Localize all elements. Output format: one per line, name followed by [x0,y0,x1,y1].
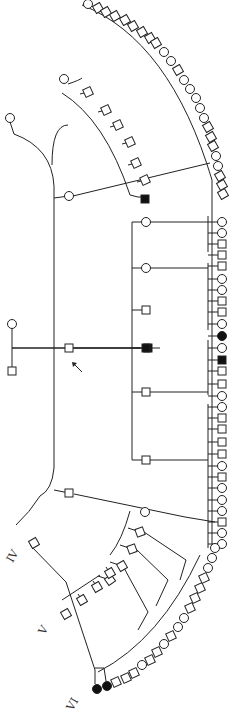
female-symbol [212,152,221,161]
male-symbol [218,438,226,446]
affected-female-symbol [218,332,227,341]
affected-male-symbol [141,195,149,203]
affected-male-symbol [142,344,150,352]
female-symbol [6,114,15,123]
male-symbol [142,456,150,464]
male-symbol [218,450,226,458]
male-symbol [218,414,226,422]
male-symbol [218,425,226,433]
female-symbol [160,640,169,649]
generation-label-v: V [35,622,51,637]
trunk [52,125,68,468]
male-symbol [203,122,214,133]
female-symbol [192,94,201,103]
male-symbol [218,367,226,375]
female-symbol [211,544,220,553]
male-symbol [8,367,16,375]
male-symbol [131,158,142,169]
proband-arrow [72,362,82,372]
male-symbol [140,175,151,186]
male-symbol [111,677,122,688]
male-symbol [190,593,201,604]
male-symbol [218,240,226,248]
male-symbol [152,647,163,658]
descent-line [30,545,95,670]
female-symbol [142,218,151,227]
male-symbol [105,568,116,579]
female-symbol [218,484,227,493]
female-symbol [218,218,227,227]
male-symbol [218,473,226,481]
pedigree-lines [10,5,222,684]
female-symbol [218,286,227,295]
male-symbol [195,583,206,594]
male-symbol [173,65,184,76]
lower-line [144,532,186,580]
female-symbol [160,48,169,57]
affected-female-symbol [93,685,102,694]
male-symbol [135,527,145,537]
male-symbol [218,297,226,305]
branch [95,668,106,681]
generation-label-vi: VI [63,696,81,714]
female-symbol [204,564,213,573]
female-symbol [218,229,227,238]
female-symbol [60,75,69,84]
male-symbol [77,595,88,606]
male-symbol [185,603,196,614]
male-symbol [218,189,229,200]
female-symbol [186,85,195,94]
female-symbol [200,114,209,123]
generation-label-iv: IV [4,547,22,565]
female-symbol [218,344,227,353]
female-symbol [218,275,227,284]
lower-line [124,568,148,630]
pedigree-symbols [6,0,229,694]
female-symbol [218,403,227,412]
male-symbol [127,544,137,554]
male-symbol [218,308,226,316]
male-symbol [218,380,226,388]
male-symbol [218,262,226,270]
male-symbol [142,388,150,396]
male-symbol [218,518,226,526]
generation-labels: IV V VI [4,547,81,714]
female-symbol [180,76,189,85]
female-symbol [218,529,227,538]
male-symbol [65,344,73,352]
female-symbol [174,623,183,632]
female-symbol [218,392,227,401]
male-symbol [142,306,150,314]
female-symbol [141,508,150,517]
male-symbol [199,573,210,584]
affected-male-symbol [218,356,226,364]
female-symbol [196,104,205,113]
female-symbol [84,0,93,9]
female-symbol [142,264,151,273]
female-symbol [218,462,227,471]
female-symbol [138,661,147,670]
male-symbol [29,538,40,549]
trunk-bottom [16,468,54,525]
lower-line [136,549,168,606]
female-symbol [167,57,176,66]
male-symbol [101,105,112,116]
male-symbol [65,489,73,497]
male-symbol [92,582,103,593]
female-symbol [218,320,227,329]
affected-female-symbol [103,682,112,691]
female-symbol [8,320,17,329]
male-symbol [218,251,226,259]
pedigree-chart: IV V VI [0,0,242,716]
female-symbol [65,192,74,201]
male-symbol [117,561,128,572]
trunk-top [10,122,54,186]
female-symbol [180,614,189,623]
male-symbol [83,87,94,98]
upper-arc [62,93,130,195]
female-symbol [208,554,217,563]
female-symbol [218,507,227,516]
male-symbol [125,137,136,148]
female-symbol [214,162,223,171]
female-symbol [218,496,227,505]
